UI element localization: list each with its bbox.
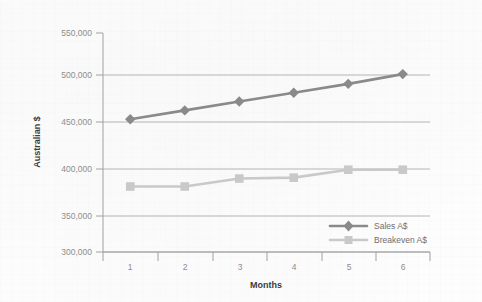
series-line-sales [130, 74, 403, 119]
legend-marker-square-icon [345, 236, 353, 244]
data-point-square-icon [344, 165, 353, 174]
x-axis-title: Months [250, 280, 282, 290]
chart-legend: Sales A$ Breakeven A$ [330, 221, 427, 246]
line-chart-plot: 550,000 500,000 450,000 400,000 350,000 … [0, 0, 482, 302]
legend-label-sales: Sales A$ [374, 221, 408, 231]
legend-item-sales[interactable]: Sales A$ [330, 221, 408, 232]
legend-item-breakeven[interactable]: Breakeven A$ [330, 235, 427, 245]
chart-figure: 550,000 500,000 450,000 400,000 350,000 … [0, 0, 482, 302]
x-axis [103, 252, 430, 261]
x-tick-label-1: 1 [128, 262, 133, 272]
y-tick-label-400000: 400,000 [61, 164, 92, 174]
data-point-diamond-icon [398, 69, 408, 79]
y-tick-label-300000: 300,000 [61, 247, 92, 257]
data-point-diamond-icon [343, 79, 353, 89]
data-point-diamond-icon [234, 96, 244, 106]
y-tick-label-550000: 550,000 [61, 28, 92, 38]
x-tick-label-3: 3 [238, 262, 243, 272]
data-point-diamond-icon [289, 88, 299, 98]
x-tick-label-4: 4 [292, 262, 297, 272]
data-point-square-icon [126, 182, 135, 191]
y-tick-label-350000: 350,000 [61, 211, 92, 221]
x-tick-label-6: 6 [401, 262, 406, 272]
data-point-diamond-icon [125, 114, 135, 124]
data-point-diamond-icon [180, 105, 190, 115]
legend-label-breakeven: Breakeven A$ [374, 235, 427, 245]
y-axis [96, 33, 103, 252]
legend-marker-diamond-icon [344, 221, 354, 232]
x-tick-label-2: 2 [183, 262, 188, 272]
y-axis-title: Australian $ [32, 116, 42, 168]
x-tick-labels: 1 2 3 4 5 6 [128, 262, 406, 272]
data-point-square-icon [289, 173, 298, 182]
data-point-square-icon [398, 165, 407, 174]
y-tick-label-500000: 500,000 [61, 70, 92, 80]
data-point-square-icon [235, 174, 244, 183]
y-tick-labels: 550,000 500,000 450,000 400,000 350,000 … [61, 28, 92, 257]
y-tick-label-450000: 450,000 [61, 117, 92, 127]
x-tick-label-5: 5 [347, 262, 352, 272]
series-sales [125, 69, 408, 125]
series-line-breakeven [130, 170, 403, 187]
data-point-square-icon [180, 182, 189, 191]
